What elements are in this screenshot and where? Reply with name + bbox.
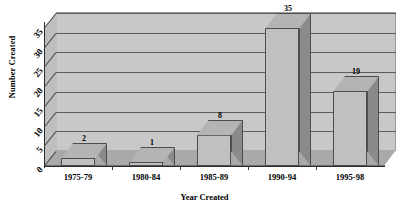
bar-value-label: 8 [218,111,222,120]
y-axis-tick-label: 35 [24,27,45,50]
bar-front-face [265,28,299,166]
bar: 1 [129,12,163,166]
x-axis-line [44,166,385,167]
bar: 2 [61,12,95,166]
bar-front-face [61,158,95,166]
y-axis-title: Number Created [7,7,17,127]
x-axis-category-label: 1980-84 [132,172,160,182]
y-axis-tick-label: 15 [24,106,45,129]
x-axis-tick [248,166,249,170]
y-axis-tick-label: 5 [24,146,45,169]
y-axis-tick-label: 20 [24,87,45,110]
bar-value-label: 35 [284,4,292,13]
x-axis-tick [316,166,317,170]
x-axis-category-label: 1990-94 [268,172,296,182]
y-axis-tick-label: 30 [24,47,45,70]
bar-chart: Number Created 05101520253035 2183519 19… [0,0,409,212]
bar-value-label: 2 [82,134,86,143]
x-axis-title: Year Created [0,192,409,202]
x-axis-category-label: 1995-98 [336,172,364,182]
y-axis-tick-label: 0 [24,165,45,188]
y-axis-tick-label: 10 [24,126,45,149]
bar: 8 [197,12,231,166]
y-axis-tick-label: 25 [24,67,45,90]
bar: 35 [265,12,299,166]
bar-front-face [197,135,231,167]
bar-side-face [299,13,311,166]
plot-area: 05101520253035 2183519 1975-791980-84198… [44,12,396,167]
bar: 19 [333,12,367,166]
x-axis-category-label: 1985-89 [200,172,228,182]
x-axis-tick [112,166,113,170]
bar-value-label: 19 [352,67,360,76]
bar-value-label: 1 [150,138,154,147]
bar-front-face [333,91,367,166]
x-axis-category-label: 1975-79 [64,172,92,182]
x-axis-tick [180,166,181,170]
